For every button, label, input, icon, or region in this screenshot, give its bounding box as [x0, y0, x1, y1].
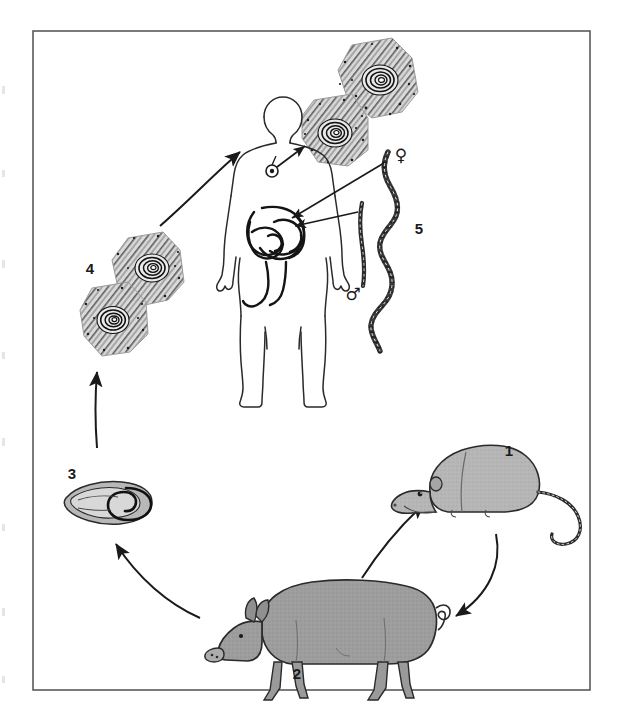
scan-artifact [2, 352, 5, 359]
label-2: 2 [293, 665, 301, 682]
label-4: 4 [86, 260, 95, 277]
coiled-larva [97, 307, 129, 334]
coiled-larva [318, 119, 352, 147]
scan-artifact [2, 524, 5, 531]
label-3: 3 [68, 465, 76, 482]
diagram-canvas: 1 2 3 4 5 ♀ ♂ [0, 0, 619, 712]
coiled-larva [135, 254, 169, 282]
scan-artifact [2, 170, 5, 177]
scan-artifact [2, 438, 5, 446]
label-5: 5 [415, 220, 423, 237]
label-1: 1 [505, 442, 513, 459]
scan-artifact [2, 676, 5, 683]
life-cycle-figure: 1 2 3 4 5 ♀ ♂ [0, 0, 619, 712]
scan-artifact [2, 260, 5, 268]
scan-artifact [2, 86, 5, 94]
coiled-larva [362, 65, 398, 95]
scan-artifact [2, 608, 5, 616]
male-symbol: ♂ [345, 284, 360, 304]
female-symbol: ♀ [395, 145, 407, 165]
